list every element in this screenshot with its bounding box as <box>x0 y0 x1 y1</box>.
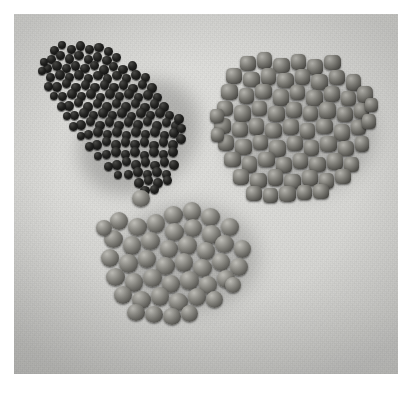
pile-round <box>14 14 398 374</box>
screenshot-root <box>0 0 413 393</box>
photograph <box>14 14 398 374</box>
